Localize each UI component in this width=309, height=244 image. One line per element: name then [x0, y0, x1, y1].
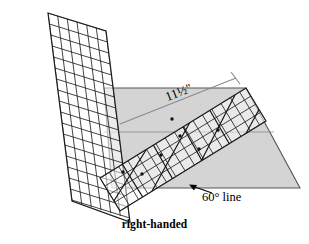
dimension-end-tick — [231, 72, 240, 84]
angle-line-label: 60° line — [202, 190, 241, 205]
diagram-canvas: 11½" 60° line right-handed — [0, 0, 309, 244]
figure-caption: right-handed — [0, 218, 309, 230]
quilting-ruler-diagram — [0, 0, 309, 244]
